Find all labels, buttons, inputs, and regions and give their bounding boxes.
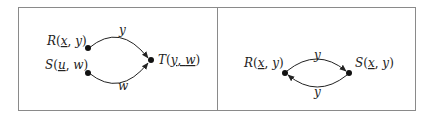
- diagram-canvas: R(x, y) S(u, w) T(y, w) y w R(x, y) S(x,…: [0, 0, 435, 120]
- edge-label-s-t: w: [118, 79, 129, 93]
- node-t: [148, 57, 154, 63]
- edge-label-r-t: y: [118, 23, 126, 37]
- left-panel: R(x, y) S(u, w) T(y, w) y w: [45, 23, 200, 93]
- node-r: [282, 70, 288, 76]
- right-panel: R(x, y) S(x, y) y y: [243, 48, 394, 99]
- node-label-r: R(x, y): [46, 34, 87, 48]
- edge-label-r-s: y: [313, 48, 321, 62]
- edge-r-to-t: [89, 37, 148, 58]
- node-label-r: R(x, y): [243, 56, 284, 70]
- node-label-s: S(x, y): [355, 56, 394, 70]
- node-label-t: T(y, w): [158, 53, 200, 67]
- node-label-s: S(u, w): [45, 58, 88, 72]
- node-s: [346, 70, 352, 76]
- edge-label-s-r: y: [313, 85, 321, 99]
